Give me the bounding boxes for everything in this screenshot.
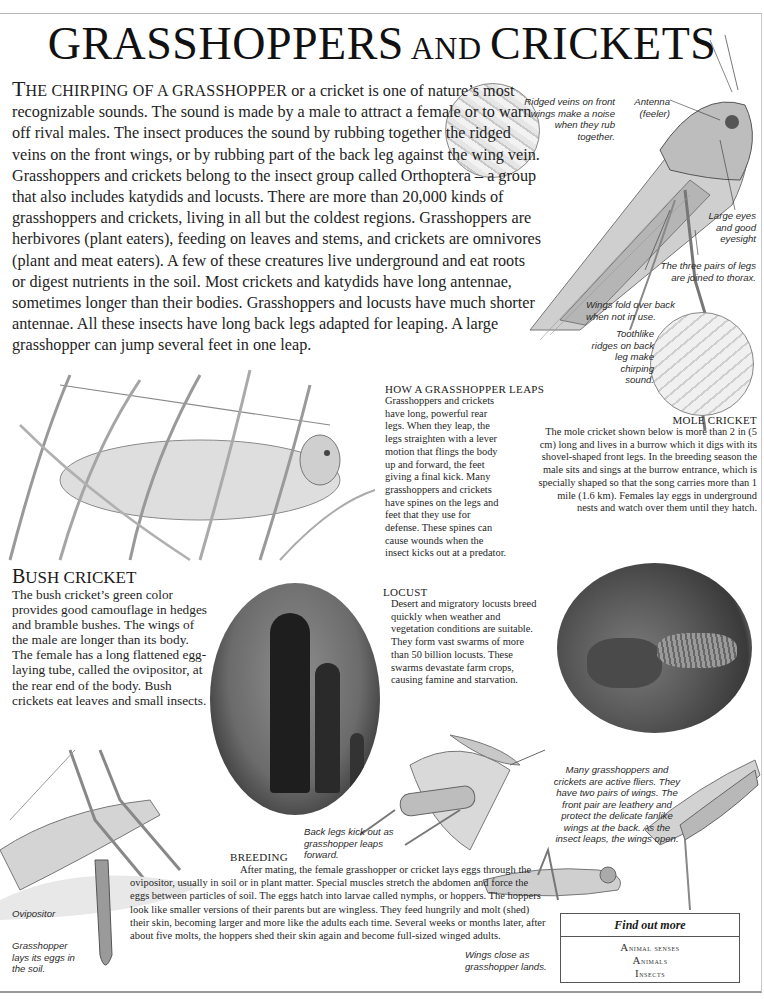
label-ridged-veins: Ridged veins on front wings make a noise… bbox=[520, 96, 615, 142]
label-wings-close: Wings close as grasshopper lands. bbox=[465, 949, 550, 972]
label-ovipositor: Ovipositor bbox=[12, 908, 82, 920]
label-lays-eggs: Grasshopper lays its eggs in the soil. bbox=[12, 940, 82, 975]
locust-heading: LOCUST bbox=[383, 586, 543, 598]
bush-cricket-in-grass-illustration bbox=[0, 365, 385, 565]
find-out-more-title: Find out more bbox=[561, 914, 739, 937]
label-antenna: Antenna (feeler) bbox=[620, 96, 670, 119]
label-large-eyes: Large eyes and good eyesight bbox=[700, 210, 756, 245]
locust-section: LOCUST Desert and migratory locusts bree… bbox=[383, 586, 543, 687]
breeding-section: BREEDING After mating, the female grassh… bbox=[130, 851, 550, 942]
link-insects[interactable]: Insects bbox=[561, 967, 739, 980]
bush-cricket-heading: BUSH CRICKET bbox=[12, 567, 212, 587]
link-animals[interactable]: Animals bbox=[561, 954, 739, 967]
bush-cricket-section: BUSH CRICKET The bush cricket’s green co… bbox=[12, 567, 212, 708]
how-leaps-heading: HOW A GRASSHOPPER LEAPS bbox=[385, 383, 565, 395]
find-out-more-list: Animal senses Animals Insects bbox=[561, 937, 739, 980]
mole-cricket-heading: MOLE CRICKET bbox=[535, 414, 757, 426]
find-out-more-box: Find out more Animal senses Animals Inse… bbox=[560, 913, 740, 983]
mole-cricket-section: MOLE CRICKET The mole cricket shown belo… bbox=[535, 414, 757, 515]
locust-swarm-photo bbox=[210, 583, 380, 815]
intro-paragraph: THE CHIRPING OF A GRASSHOPPER or a crick… bbox=[12, 78, 542, 357]
leg-ridges-closeup bbox=[650, 312, 754, 416]
mole-cricket-photo bbox=[557, 563, 752, 733]
label-three-pairs: The three pairs of legs are joined to th… bbox=[660, 260, 756, 283]
label-toothlike: Toothlike ridges on back leg make chirpi… bbox=[590, 328, 654, 386]
how-leaps-body: Grasshoppers and crickets have long, pow… bbox=[385, 395, 507, 560]
breeding-heading: BREEDING bbox=[130, 851, 550, 863]
locust-body: Desert and migratory locusts breed quick… bbox=[383, 598, 543, 687]
label-active-fliers: Many grasshoppers and crickets are activ… bbox=[552, 764, 682, 845]
label-wings-fold: Wings fold over back when not in use. bbox=[586, 299, 696, 322]
bush-cricket-body: The bush cricket’s green color provides … bbox=[12, 587, 212, 708]
mole-cricket-body: The mole cricket shown below is more tha… bbox=[535, 426, 757, 515]
breeding-body: After mating, the female grasshopper or … bbox=[130, 863, 550, 942]
link-animal-senses[interactable]: Animal senses bbox=[561, 941, 739, 954]
